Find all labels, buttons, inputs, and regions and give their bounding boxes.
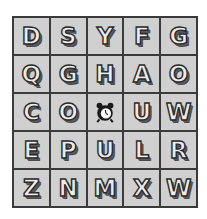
grid-cell-r2c5[interactable]: O <box>160 55 197 93</box>
letter-tile: Y <box>97 25 114 48</box>
grid-cell-r3c4[interactable]: U <box>123 93 160 131</box>
grid-cell-r3c5[interactable]: W <box>160 93 197 131</box>
grid-cell-r5c3[interactable]: M <box>87 169 124 207</box>
letter-tile: R <box>170 139 188 162</box>
grid-cell-r1c3[interactable]: Y <box>87 17 124 55</box>
grid-cell-r1c2[interactable]: S <box>50 17 87 55</box>
letter-tile: F <box>134 25 150 48</box>
letter-tile: P <box>60 139 77 162</box>
letter-tile: A <box>133 63 151 86</box>
grid-cell-r3c2[interactable]: O <box>50 93 87 131</box>
letter-tile: C <box>23 101 40 124</box>
letter-tile: X <box>133 177 151 200</box>
grid-cell-r1c4[interactable]: F <box>123 17 160 55</box>
letter-tile: O <box>58 101 78 124</box>
letter-tile: N <box>59 177 78 200</box>
grid-cell-r1c1[interactable]: D <box>13 17 50 55</box>
grid-cell-r4c3[interactable]: U <box>87 131 124 169</box>
grid-cell-r4c5[interactable]: R <box>160 131 197 169</box>
letter-tile: D <box>22 25 41 48</box>
letter-tile: W <box>166 177 191 200</box>
letter-tile: E <box>24 139 40 162</box>
letter-tile: G <box>59 63 78 86</box>
grid-cell-r4c4[interactable]: L <box>123 131 160 169</box>
alarm-clock-icon <box>94 101 116 123</box>
grid-cell-r4c1[interactable]: E <box>13 131 50 169</box>
letter-tile: H <box>95 63 114 86</box>
letter-grid-board: D S Y F G Q G H A O C O U W E P U L R Z … <box>12 16 198 208</box>
grid-cell-r5c2[interactable]: N <box>50 169 87 207</box>
grid-cell-r4c2[interactable]: P <box>50 131 87 169</box>
letter-tile: U <box>132 101 151 124</box>
letter-tile: G <box>169 25 188 48</box>
grid-cell-r5c4[interactable]: X <box>123 169 160 207</box>
grid-cell-r3c1[interactable]: C <box>13 93 50 131</box>
letter-tile: L <box>134 139 149 162</box>
grid-cell-r5c1[interactable]: Z <box>13 169 50 207</box>
grid-cell-r2c1[interactable]: Q <box>13 55 50 93</box>
letter-tile: Z <box>23 177 40 200</box>
grid-cell-r1c5[interactable]: G <box>160 17 197 55</box>
letter-tile: O <box>169 63 189 86</box>
letter-tile: Q <box>22 63 42 86</box>
letter-tile: M <box>94 177 117 200</box>
letter-tile: W <box>166 101 191 124</box>
grid-cell-r2c4[interactable]: A <box>123 55 160 93</box>
grid-cell-r5c5[interactable]: W <box>160 169 197 207</box>
grid-cell-r2c2[interactable]: G <box>50 55 87 93</box>
letter-tile: S <box>60 25 77 48</box>
letter-tile: U <box>96 139 115 162</box>
grid-cell-r3c3-center[interactable] <box>87 93 124 131</box>
grid-cell-r2c3[interactable]: H <box>87 55 124 93</box>
